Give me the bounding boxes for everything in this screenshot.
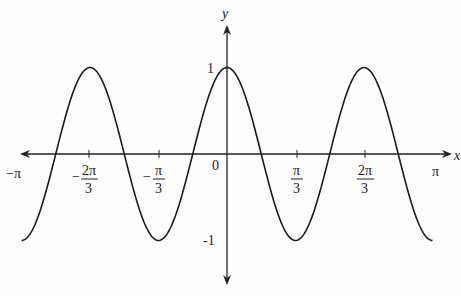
y-axis-label: y: [220, 6, 229, 21]
x-axis-label: x: [453, 148, 461, 163]
x-tick-label-pi3: π 3: [291, 163, 303, 196]
x-tick-label-neg-pi: −π: [6, 166, 21, 181]
x-tick-label-pi: π: [432, 164, 439, 179]
y-tick-label-neg1: -1: [203, 233, 215, 248]
svg-text:π: π: [155, 163, 162, 178]
svg-text:−: −: [72, 169, 80, 184]
svg-text:3: 3: [155, 181, 162, 196]
origin-label: 0: [212, 158, 219, 173]
svg-text:3: 3: [361, 181, 368, 196]
svg-text:3: 3: [85, 181, 92, 196]
chart: y x 1 -1 −π 0 π − 2π 3 − π 3 π 3 2π 3: [0, 0, 461, 296]
x-tick-label-neg-pi3: − π 3: [143, 163, 165, 196]
svg-text:3: 3: [293, 181, 300, 196]
svg-text:2π: 2π: [358, 163, 372, 178]
svg-text:2π: 2π: [82, 163, 96, 178]
x-tick-label-neg-2pi3: − 2π 3: [72, 163, 98, 196]
svg-text:π: π: [293, 163, 300, 178]
y-tick-label-1: 1: [207, 61, 214, 76]
svg-text:−: −: [143, 169, 151, 184]
x-tick-label-2pi3: 2π 3: [357, 163, 374, 196]
